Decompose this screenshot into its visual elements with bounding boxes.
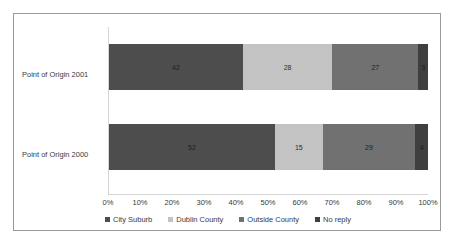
legend-label: Outside County (247, 215, 299, 224)
x-tick-label: 70% (324, 198, 339, 207)
x-axis-tick-labels: 0%10%20%30%40%50%60%70%80%90%100% (108, 198, 428, 212)
stacked-bar-2000: 5215294 (109, 124, 428, 170)
x-tick-label: 40% (228, 198, 243, 207)
bar-segment: 27 (332, 44, 418, 90)
bar-segment-value-label: 27 (371, 64, 379, 71)
square-marker-icon (315, 217, 320, 222)
square-marker-icon (168, 217, 173, 222)
legend-item[interactable]: City Suburb (105, 215, 152, 224)
bar-segment: 4 (415, 124, 428, 170)
plot-area: 4228273 5215294 (108, 27, 428, 195)
chart-frame: Point of Origin 2001 Point of Origin 200… (13, 13, 441, 231)
x-tick-label: 0% (103, 198, 114, 207)
legend-item[interactable]: Dublin County (168, 215, 223, 224)
category-label-2001: Point of Origin 2001 (22, 70, 110, 79)
bar-segment: 52 (109, 124, 275, 170)
x-tick-label: 90% (388, 198, 403, 207)
square-marker-icon (239, 217, 244, 222)
bar-segment: 15 (275, 124, 323, 170)
x-tick-label: 20% (164, 198, 179, 207)
bar-segment-value-label: 29 (365, 144, 373, 151)
legend-item[interactable]: Outside County (239, 215, 299, 224)
square-marker-icon (105, 217, 110, 222)
bar-segment: 29 (323, 124, 416, 170)
stacked-bar-2001: 4228273 (109, 44, 428, 90)
bar-segment-value-label: 15 (295, 144, 303, 151)
bar-segment-value-label: 42 (172, 64, 180, 71)
x-tick-label: 30% (196, 198, 211, 207)
x-axis-line (108, 194, 428, 195)
x-tick-label: 50% (260, 198, 275, 207)
bar-segment-value-label: 3 (421, 64, 425, 71)
legend-label: Dublin County (176, 215, 223, 224)
x-tick-label: 80% (356, 198, 371, 207)
legend-label: No reply (323, 215, 351, 224)
legend-item[interactable]: No reply (315, 215, 351, 224)
bar-segment: 42 (109, 44, 243, 90)
category-label-2000: Point of Origin 2000 (22, 150, 110, 159)
x-tick-label: 100% (418, 198, 437, 207)
x-tick-label: 10% (132, 198, 147, 207)
legend-label: City Suburb (113, 215, 152, 224)
bar-segment: 3 (418, 44, 428, 90)
x-tick-label: 60% (292, 198, 307, 207)
chart-legend: City SuburbDublin CountyOutside CountyNo… (14, 215, 442, 224)
bar-segment-value-label: 28 (284, 64, 292, 71)
bar-segment-value-label: 4 (420, 144, 424, 151)
bar-segment: 28 (243, 44, 332, 90)
bar-segment-value-label: 52 (188, 144, 196, 151)
